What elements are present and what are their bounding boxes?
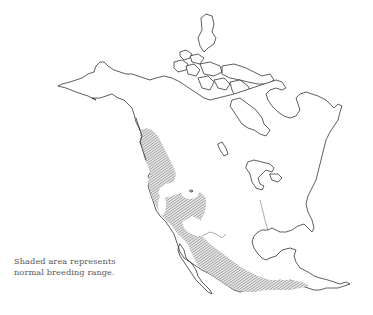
legend-line-2: normal breeding range. bbox=[14, 267, 116, 278]
range-map: Shaded area represents normal breeding r… bbox=[0, 0, 373, 315]
map-legend-caption: Shaded area represents normal breeding r… bbox=[14, 256, 116, 278]
legend-line-1: Shaded area represents bbox=[14, 256, 116, 267]
